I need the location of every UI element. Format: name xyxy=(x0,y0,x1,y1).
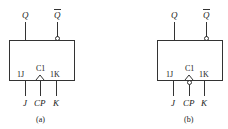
flipflop-a-qbar-bubble xyxy=(56,37,60,41)
flipflop-a-cp-label: CP xyxy=(34,98,46,108)
flipflop-a-pin-1k: 1K xyxy=(50,70,60,79)
flipflop-a-caption: (a) xyxy=(36,115,45,124)
flipflop-a-qbar-label: Q xyxy=(54,10,61,20)
flipflop-b-k-label: K xyxy=(200,98,208,108)
flipflop-a-j-label: J xyxy=(23,98,28,108)
flipflop-b-qbar-label: Q xyxy=(203,10,210,20)
flipflop-b-j-label: J xyxy=(171,98,176,108)
flipflop-a-pin-c1: C1 xyxy=(36,64,45,73)
flipflop-b-qbar-bubble xyxy=(205,37,209,41)
flipflop-b-q-label: Q xyxy=(171,10,178,20)
flipflop-a-q-label: Q xyxy=(22,10,29,20)
flipflop-b-clock-bubble xyxy=(188,81,192,85)
flipflop-b-cp-label: CP xyxy=(183,98,195,108)
flipflop-a-pin-1j: 1J xyxy=(17,70,24,79)
flipflop-b-pin-c1: C1 xyxy=(185,64,194,73)
flipflop-b: Q Q 1J C1 1K J CP K (b) xyxy=(158,10,223,125)
flipflop-a-clock-triangle xyxy=(36,75,44,80)
flipflop-b-pin-1k: 1K xyxy=(199,70,209,79)
flipflop-a-k-label: K xyxy=(52,98,60,108)
flipflop-b-clock-triangle xyxy=(185,75,193,80)
flipflop-b-caption: (b) xyxy=(184,115,194,124)
flipflop-b-pin-1j: 1J xyxy=(166,70,173,79)
flipflop-a: Q Q 1J C1 1K J CP K (a) xyxy=(10,10,75,125)
